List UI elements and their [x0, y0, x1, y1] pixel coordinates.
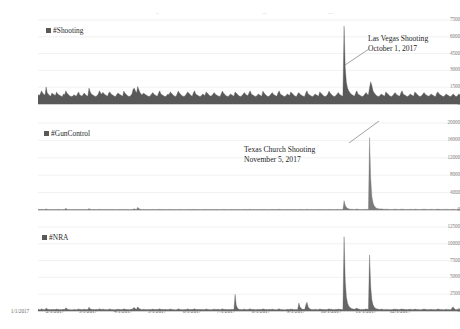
x-tick-label: 2/1/2017 — [46, 308, 64, 314]
annotation-line-2: November 5, 2017 — [244, 155, 315, 165]
legend-swatch-icon — [42, 235, 47, 240]
x-tick-label: 5/1/2017 — [148, 308, 166, 314]
plot-area-guncontrol — [38, 112, 460, 218]
x-tick-label: 10/1/2017 — [321, 308, 342, 314]
x-tick-label: 6/1/2017 — [183, 308, 201, 314]
annotation-leader-line-las-vegas — [344, 48, 370, 66]
series-area-nra — [38, 237, 460, 311]
chart-panel-guncontrol: 20000 16000 12000 8000 4000 0 #GunContro… — [0, 112, 460, 218]
plot-area-shooting — [38, 6, 460, 112]
legend-swatch-icon — [44, 131, 49, 136]
annotation-line-1: Las Vegas Shooting — [368, 34, 428, 44]
legend-nra: #NRA — [42, 233, 68, 242]
legend-guncontrol: #GunControl — [44, 129, 90, 138]
x-tick-label: 12/1/2017 — [390, 308, 411, 314]
scan-artifact — [156, 13, 159, 14]
plot-area-nra — [38, 218, 460, 319]
legend-shooting: #Shooting — [46, 26, 83, 35]
x-tick-label: 11/1/2017 — [356, 308, 377, 314]
annotation-line-1: Texas Church Shooting — [244, 145, 315, 155]
legend-label: #GunControl — [51, 129, 90, 138]
annotation-las-vegas: Las Vegas Shooting October 1, 2017 — [368, 34, 428, 53]
x-tick-label: 3/1/2017 — [79, 308, 97, 314]
chart-panel-shooting: 7500 6000 4500 3000 1500 0 #Shooting Las… — [0, 6, 460, 112]
x-axis: 1/1/2017 2/1/2017 3/1/2017 4/1/2017 5/1/… — [0, 306, 460, 320]
x-tick-label: 7/1/2017 — [217, 308, 235, 314]
annotation-line-2: October 1, 2017 — [368, 44, 428, 54]
legend-label: #NRA — [49, 233, 68, 242]
annotation-leader-line-texas-church — [348, 120, 380, 144]
annotation-texas-church: Texas Church Shooting November 5, 2017 — [244, 145, 315, 164]
scan-artifact — [262, 13, 267, 14]
x-tick-label: 9/1/2017 — [287, 308, 305, 314]
x-tick-label: 8/1/2017 — [252, 308, 270, 314]
legend-swatch-icon — [46, 28, 51, 33]
scan-artifact — [328, 13, 333, 14]
three-panel-timeseries-figure: 7500 6000 4500 3000 1500 0 #Shooting Las… — [0, 0, 460, 329]
legend-label: #Shooting — [53, 26, 83, 35]
x-tick-label: 1/1/2017 — [11, 308, 29, 314]
x-tick-label: 4/1/2017 — [114, 308, 132, 314]
